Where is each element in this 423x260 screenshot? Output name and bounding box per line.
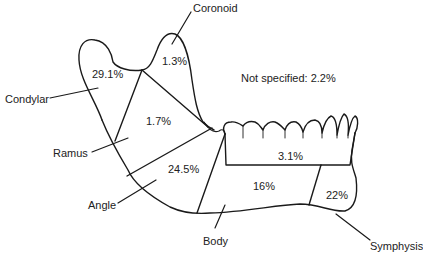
label-condylar: Condylar [5,93,49,105]
percent-angle: 24.5% [168,163,199,175]
not-specified-note: Not specified: 2.2% [241,72,336,84]
percent-coronoid: 1.3% [162,55,187,67]
percent-condylar: 29.1% [92,68,123,80]
percent-alveolar: 3.1% [278,150,303,162]
label-body: Body [203,235,228,247]
label-ramus: Ramus [53,147,88,159]
label-angle: Angle [88,199,116,211]
percent-ramus: 1.7% [146,115,171,127]
label-coronoid: Coronoid [193,2,238,14]
percent-body: 16% [253,180,275,192]
percent-symphysis: 22% [326,189,348,201]
label-symphysis: Symphysis [370,240,423,252]
